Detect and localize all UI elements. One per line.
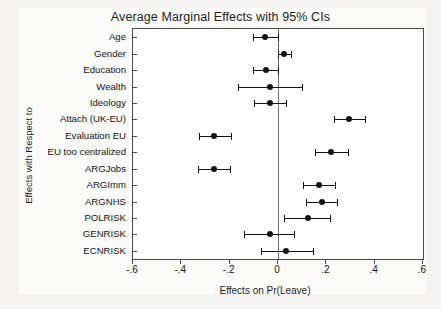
confidence-interval-cap (254, 100, 255, 107)
estimate-point-marker (319, 199, 325, 205)
y-axis-tick (133, 169, 137, 170)
y-axis-tick-label: ARGImm (6, 179, 132, 190)
y-axis-tick (133, 87, 137, 88)
estimate-point-marker (211, 133, 217, 139)
y-axis-tick (133, 251, 137, 252)
y-axis-tick (133, 185, 137, 186)
confidence-interval-cap (278, 51, 279, 58)
y-axis-tick-label: Age (6, 31, 132, 42)
y-axis-tick (133, 54, 137, 55)
x-axis-tick-label: -.4 (174, 264, 186, 275)
confidence-interval-cap (302, 84, 303, 91)
confidence-interval-cap (337, 199, 338, 206)
confidence-interval-cap (306, 199, 307, 206)
estimate-point-marker (281, 51, 287, 57)
confidence-interval-cap (291, 51, 292, 58)
y-axis-tick-label: Education (6, 64, 132, 75)
confidence-interval-cap (253, 34, 254, 41)
confidence-interval-cap (286, 100, 287, 107)
confidence-interval-cap (199, 133, 200, 140)
estimate-point-marker (316, 182, 322, 188)
x-axis-title: Effects on Pr(Leave) (145, 285, 385, 296)
y-axis-tick (133, 218, 137, 219)
confidence-interval-cap (230, 166, 231, 173)
confidence-interval-cap (244, 231, 245, 238)
y-axis-tick (133, 152, 137, 153)
x-axis-tick-label: .6 (418, 264, 426, 275)
confidence-interval-cap (303, 182, 304, 189)
plot-area (132, 28, 424, 260)
x-axis-tick-label: .2 (321, 264, 329, 275)
confidence-interval-cap (315, 149, 316, 156)
estimate-point-marker (211, 166, 217, 172)
y-axis-tick (133, 103, 137, 104)
y-axis-tick-label: ECNRISK (6, 244, 132, 255)
confidence-interval-cap (278, 34, 279, 41)
confidence-interval-cap (334, 116, 335, 123)
estimate-point-marker (283, 248, 289, 254)
estimate-point-marker (346, 116, 352, 122)
confidence-interval-cap (231, 133, 232, 140)
y-axis: AgeGenderEducationWealthIdeologyAttach (… (0, 28, 132, 260)
zero-reference-line (278, 29, 279, 259)
confidence-interval-cap (278, 67, 279, 74)
confidence-interval-cap (261, 248, 262, 255)
confidence-interval-cap (365, 116, 366, 123)
x-axis-tick-label: -.2 (223, 264, 235, 275)
confidence-interval-cap (238, 84, 239, 91)
estimate-point-marker (262, 34, 268, 40)
confidence-interval-cap (313, 248, 314, 255)
confidence-interval-cap (330, 215, 331, 222)
confidence-interval-cap (284, 215, 285, 222)
y-axis-tick (133, 136, 137, 137)
x-axis-tick-label: -.6 (126, 264, 138, 275)
y-axis-tick (133, 70, 137, 71)
figure-container: Average Marginal Effects with 95% CIs Ef… (0, 0, 441, 309)
y-axis-tick-label: Wealth (6, 80, 132, 91)
estimate-point-marker (267, 231, 273, 237)
y-axis-tick-label: POLRISK (6, 211, 132, 222)
y-axis-tick-label: Evaluation EU (6, 129, 132, 140)
y-axis-tick-label: Ideology (6, 96, 132, 107)
confidence-interval-cap (348, 149, 349, 156)
y-axis-tick-label: ARGJobs (6, 162, 132, 173)
y-axis-tick (133, 202, 137, 203)
y-axis-tick-label: Gender (6, 47, 132, 58)
y-axis-tick (133, 119, 137, 120)
chart-title: Average Marginal Effects with 95% CIs (0, 10, 441, 24)
x-axis-tick-label: .4 (369, 264, 377, 275)
y-axis-tick-label: Attach (UK-EU) (6, 113, 132, 124)
y-axis-tick (133, 234, 137, 235)
y-axis-tick (133, 37, 137, 38)
y-axis-tick-label: GENRISK (6, 228, 132, 239)
confidence-interval-cap (198, 166, 199, 173)
estimate-point-marker (267, 84, 273, 90)
y-axis-tick-label: EU too centralized (6, 146, 132, 157)
confidence-interval-cap (335, 182, 336, 189)
estimate-point-marker (263, 67, 269, 73)
estimate-point-marker (328, 149, 334, 155)
estimate-point-marker (305, 215, 311, 221)
x-axis: -.6-.4-.20.2.4.6 (132, 260, 424, 280)
confidence-interval-cap (253, 67, 254, 74)
y-axis-tick-label: ARGNHS (6, 195, 132, 206)
estimate-point-marker (267, 100, 273, 106)
confidence-interval-cap (294, 231, 295, 238)
x-axis-tick-label: 0 (274, 264, 280, 275)
